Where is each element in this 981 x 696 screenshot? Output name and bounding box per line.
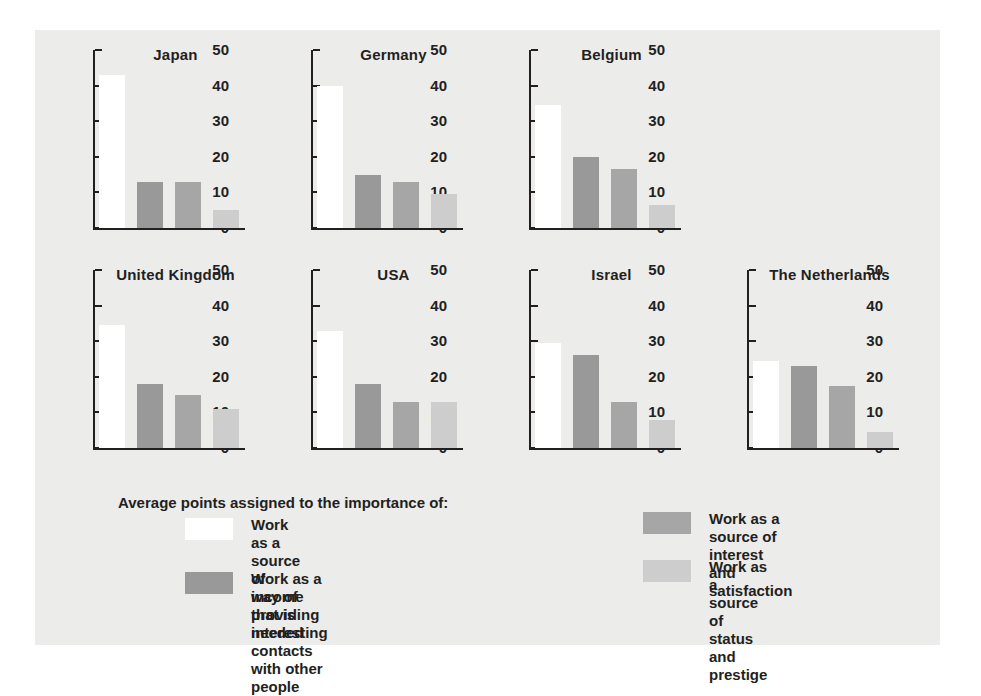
bar	[213, 210, 239, 228]
bar	[137, 182, 163, 228]
bar	[213, 409, 239, 448]
bar	[137, 384, 163, 448]
bar	[867, 432, 893, 448]
plot-area: 01020304050	[311, 50, 461, 228]
bar	[611, 169, 637, 228]
legend-swatch	[643, 512, 691, 534]
bar	[649, 420, 675, 448]
bar	[791, 366, 817, 448]
plot-area: 01020304050	[311, 270, 461, 448]
legend-swatch	[185, 518, 233, 540]
bar	[535, 105, 561, 228]
chart-panel: Japan01020304050	[45, 38, 250, 243]
bar	[573, 157, 599, 228]
bar	[99, 325, 125, 448]
legend-title: Average points assigned to the importanc…	[118, 494, 448, 511]
bar-group	[95, 270, 245, 448]
plot-area: 01020304050	[93, 270, 243, 448]
chart-panel: Belgium01020304050	[481, 38, 686, 243]
bar	[99, 75, 125, 228]
bar	[573, 355, 599, 448]
bar	[175, 182, 201, 228]
bar	[829, 386, 855, 448]
chart-legend: Average points assigned to the importanc…	[35, 482, 940, 645]
bar	[317, 331, 343, 448]
plot-area: 01020304050	[747, 270, 897, 448]
bar	[649, 205, 675, 228]
bar-group	[531, 50, 681, 228]
bar-group	[531, 270, 681, 448]
bar	[175, 395, 201, 448]
bar	[431, 194, 457, 228]
bar-group	[313, 270, 463, 448]
bar-group	[313, 50, 463, 228]
plot-area: 01020304050	[529, 270, 679, 448]
bar-group	[749, 270, 899, 448]
bar	[611, 402, 637, 448]
legend-label: Work as a way of providing interesting c…	[251, 570, 328, 696]
bar	[431, 402, 457, 448]
legend-swatch	[643, 560, 691, 582]
bar	[317, 86, 343, 228]
chart-panel: Israel01020304050	[481, 258, 686, 463]
plot-area: 01020304050	[93, 50, 243, 228]
bar	[535, 343, 561, 448]
chart-figure: Japan01020304050Germany01020304050Belgiu…	[35, 30, 940, 645]
plot-area: 01020304050	[529, 50, 679, 228]
bar	[393, 402, 419, 448]
bar	[393, 182, 419, 228]
chart-panel: The Netherlands01020304050	[699, 258, 904, 463]
chart-panel: USA01020304050	[263, 258, 468, 463]
bar-group	[95, 50, 245, 228]
bar	[355, 384, 381, 448]
panel-grid: Japan01020304050Germany01020304050Belgiu…	[35, 30, 940, 480]
bar	[753, 361, 779, 448]
bar	[355, 175, 381, 228]
legend-label: Work as a source of status and prestige	[709, 558, 767, 684]
legend-swatch	[185, 572, 233, 594]
chart-panel: Germany01020304050	[263, 38, 468, 243]
chart-panel: United Kingdom01020304050	[45, 258, 250, 463]
